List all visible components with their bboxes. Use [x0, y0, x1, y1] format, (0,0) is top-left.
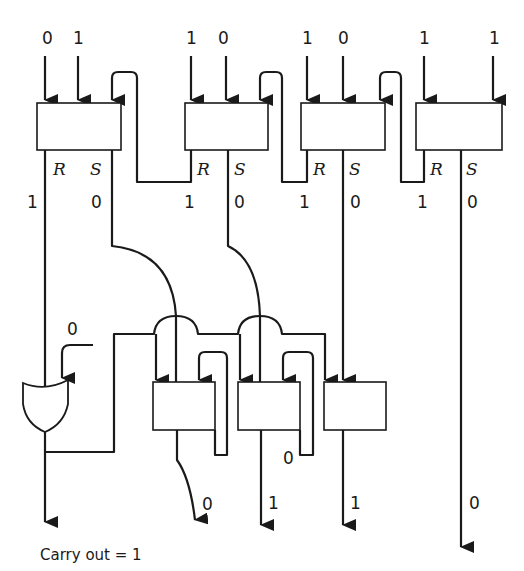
r-value-4: 1: [417, 192, 428, 212]
s-value-1: 0: [91, 192, 102, 212]
mid-cell-3: [324, 382, 386, 430]
top-cell-3: [301, 103, 385, 150]
r-value-1: 1: [27, 192, 38, 212]
s-label-1: S: [90, 159, 102, 179]
carry-out-caption: Carry out = 1: [40, 546, 142, 564]
s2-wire: [228, 150, 260, 383]
r-value-2: 1: [184, 192, 195, 212]
s-value-3: 0: [350, 192, 361, 212]
input-label-c4b: 1: [489, 28, 500, 48]
or-input-wire: [62, 345, 93, 378]
output-wire-1: [177, 430, 195, 520]
input-label-c2b: 0: [218, 28, 229, 48]
s-label-2: S: [234, 159, 246, 179]
r-label-4: R: [429, 159, 443, 179]
input-label-c2a: 1: [186, 28, 197, 48]
carry-chain-diagram: 0 1 1 0 1 0 1 1 R S R S R S R S 1 0 1 0 …: [0, 0, 524, 571]
input-label-c3b: 0: [338, 28, 349, 48]
s-label-3: S: [349, 159, 361, 179]
r-value-3: 1: [299, 192, 310, 212]
r-label-3: R: [312, 159, 326, 179]
s-value-4: 0: [467, 192, 478, 212]
output-label-2: 1: [268, 493, 279, 513]
input-label-c1b: 1: [73, 28, 84, 48]
output-label-1: 0: [202, 494, 213, 514]
output-label-3: 1: [350, 493, 361, 513]
s1-wire: [112, 150, 176, 383]
s-label-4: S: [466, 159, 478, 179]
input-label-c4a: 1: [419, 28, 430, 48]
r-label-1: R: [52, 159, 66, 179]
or-input-label: 0: [67, 319, 78, 339]
mid-value-label: 0: [283, 448, 294, 468]
output-label-4: 0: [469, 493, 480, 513]
input-label-c3a: 1: [302, 28, 313, 48]
top-cell-2: [185, 103, 268, 150]
mid-cell-1: [153, 382, 215, 430]
r-label-2: R: [196, 159, 210, 179]
input-label-c1a: 0: [42, 28, 53, 48]
s-value-2: 0: [234, 192, 245, 212]
or-gate: [23, 380, 68, 432]
top-cell-1: [37, 103, 121, 150]
top-cell-4: [416, 103, 502, 150]
mid-cell-2: [238, 382, 300, 430]
